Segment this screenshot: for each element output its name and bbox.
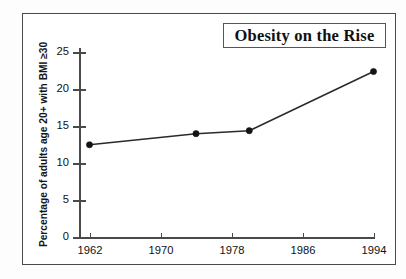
data-point-1980 [246, 128, 252, 134]
data-point-1962 [86, 142, 92, 148]
data-series-obesity [23, 14, 397, 266]
chart-frame: 25 20 15 10 5 0 1962 [22, 13, 396, 265]
y-axis-title: Percentage of adults age 20+ with BMI ≥3… [38, 37, 49, 252]
data-point-1974 [193, 131, 199, 137]
chart-title: Obesity on the Rise [235, 26, 375, 46]
plot-area: 25 20 15 10 5 0 1962 [23, 14, 397, 266]
scanned-figure-canvas: Source: National Institutes of Health. 2… [0, 0, 406, 279]
data-point-1994 [370, 68, 376, 74]
chart-title-box: Obesity on the Rise [223, 23, 386, 48]
